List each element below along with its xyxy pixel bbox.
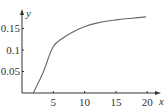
data-curve xyxy=(33,17,146,93)
y-tick-label: 0.1 xyxy=(6,44,20,56)
y-ticks: 0.05 0.1 0.15 xyxy=(1,22,24,77)
chart: x y 5 10 15 20 0.05 0.1 0.15 xyxy=(0,0,166,110)
x-axis-label: x xyxy=(158,95,164,107)
x-tick-label: 15 xyxy=(110,96,122,108)
x-tick-label: 10 xyxy=(79,96,91,108)
y-tick-label: 0.15 xyxy=(1,22,21,34)
x-tick-label: 20 xyxy=(142,96,154,108)
y-tick-label: 0.05 xyxy=(1,65,21,77)
y-axis-arrow-icon xyxy=(20,9,24,15)
y-axis-label: y xyxy=(25,7,31,19)
x-ticks: 5 10 15 20 xyxy=(51,91,154,108)
x-tick-label: 5 xyxy=(51,96,57,108)
